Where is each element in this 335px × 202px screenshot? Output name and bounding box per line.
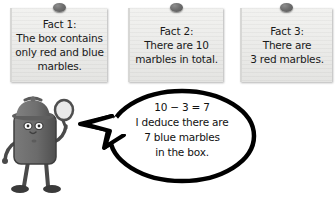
speech-bubble-line-3: 7 blue marbles bbox=[114, 130, 250, 145]
fact-note-1-line-2: The box contains bbox=[15, 31, 104, 45]
pin-icon bbox=[280, 3, 293, 12]
left-leg bbox=[24, 162, 28, 186]
pin-icon bbox=[53, 3, 66, 12]
fact-note-3-line-1: Fact 3: bbox=[250, 24, 324, 38]
fact-note-2: Fact 2: There are 10 marbles in total. bbox=[128, 8, 223, 82]
hat-knob bbox=[31, 97, 36, 102]
fact-note-1: Fact 1: The box contains only red and bl… bbox=[10, 8, 107, 82]
illustration-scene: Fact 1: The box contains only red and bl… bbox=[0, 0, 335, 202]
right-leg bbox=[46, 162, 48, 186]
left-pupil bbox=[27, 125, 30, 128]
body bbox=[14, 114, 56, 164]
speech-bubble: 10 − 3 = 7 I deduce there are 7 blue mar… bbox=[78, 86, 258, 190]
fact-note-2-line-3: marbles in total. bbox=[135, 52, 218, 66]
magnifying-glass-icon bbox=[55, 100, 73, 120]
fact-note-3: Fact 3: There are 3 red marbles. bbox=[240, 8, 332, 82]
speech-bubble-line-4: in the box. bbox=[114, 145, 250, 160]
fact-note-1-line-1: Fact 1: bbox=[15, 17, 104, 31]
right-pupil bbox=[38, 125, 41, 128]
right-shoe bbox=[43, 185, 61, 193]
fact-note-2-line-1: Fact 2: bbox=[135, 24, 218, 38]
speech-bubble-line-1: 10 − 3 = 7 bbox=[114, 100, 250, 115]
fact-note-1-line-3: only red and blue bbox=[15, 45, 104, 59]
detective-character bbox=[2, 96, 98, 202]
fact-note-2-text: Fact 2: There are 10 marbles in total. bbox=[132, 24, 221, 66]
fact-note-3-line-3: 3 red marbles. bbox=[250, 52, 324, 66]
pin-icon bbox=[170, 3, 183, 12]
speech-bubble-text: 10 − 3 = 7 I deduce there are 7 blue mar… bbox=[114, 100, 250, 160]
fact-note-1-line-4: marbles. bbox=[15, 59, 104, 73]
hat-crown bbox=[16, 100, 50, 116]
fact-note-3-line-2: There are bbox=[250, 38, 324, 52]
fact-note-2-line-2: There are 10 bbox=[135, 38, 218, 52]
left-shoe bbox=[11, 185, 29, 193]
fact-note-1-text: Fact 1: The box contains only red and bl… bbox=[12, 17, 107, 73]
button bbox=[32, 139, 37, 142]
left-hand bbox=[2, 158, 8, 164]
speech-bubble-line-2: I deduce there are bbox=[114, 115, 250, 130]
fact-note-3-text: Fact 3: There are 3 red marbles. bbox=[247, 24, 327, 66]
